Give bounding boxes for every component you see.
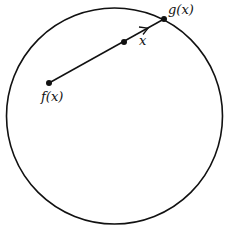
boundary-circle [7,8,223,224]
point-g [161,16,167,22]
label-f: f(x) [40,89,63,104]
point-x [121,39,127,45]
diagram-canvas: f(x) x g(x) [0,0,225,233]
point-f [46,80,52,86]
label-g: g(x) [168,2,194,17]
label-x: x [139,33,147,48]
